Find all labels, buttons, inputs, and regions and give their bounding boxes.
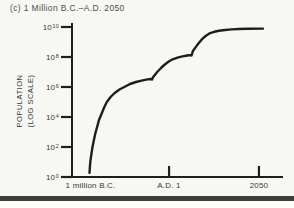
y-tick-base: 10 <box>46 53 55 62</box>
x-tick-label-2050: 2050 <box>250 181 269 190</box>
y-axis-label-line2: (LOG SCALE) <box>26 74 35 127</box>
x-tick-label-ad-1: A.D. 1 <box>157 181 180 190</box>
y-tick-label-1e0: 100 <box>46 173 59 182</box>
y-tick-label-1e8: 108 <box>46 53 59 62</box>
x-tick-label-1-million-bc: 1 million B.C. <box>66 181 116 190</box>
y-tick-base: 10 <box>43 23 52 32</box>
y-tick-exponent: 0 <box>56 172 59 178</box>
y-tick-exponent: 4 <box>56 112 59 118</box>
page-edge-strip <box>0 201 294 208</box>
y-axis-label-line1: POPULATION <box>15 75 24 128</box>
y-tick-base: 10 <box>46 173 55 182</box>
y-tick-base: 10 <box>46 83 55 92</box>
y-tick-label-1e10: 1010 <box>43 23 59 32</box>
y-tick-exponent: 6 <box>56 82 59 88</box>
y-tick-exponent: 2 <box>56 142 59 148</box>
y-tick-label-1e4: 104 <box>46 113 59 122</box>
y-tick-exponent: 10 <box>52 22 59 28</box>
y-tick-base: 10 <box>46 113 55 122</box>
y-tick-base: 10 <box>46 143 55 152</box>
y-tick-exponent: 8 <box>56 52 59 58</box>
figure: (c) 1 Million B.C.–A.D. 2050 POPULATION … <box>0 0 294 207</box>
population-curve <box>90 29 264 173</box>
y-tick-label-1e2: 102 <box>46 143 59 152</box>
y-axis-label: POPULATION (LOG SCALE) <box>15 74 37 127</box>
y-tick-label-1e6: 106 <box>46 83 59 92</box>
